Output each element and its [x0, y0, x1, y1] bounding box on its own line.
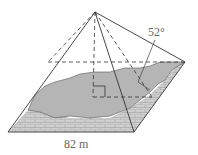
pyramid-diagram: 52° 82 m: [0, 0, 198, 155]
angle-label: 52°: [148, 25, 165, 39]
base-length-label: 82 m: [64, 137, 89, 151]
